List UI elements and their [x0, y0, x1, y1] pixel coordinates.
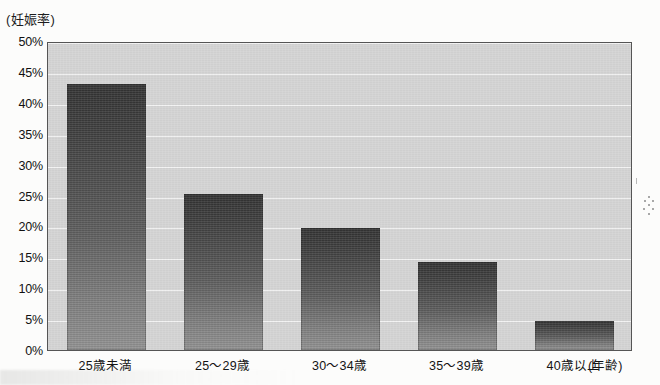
scan-speckle-artifact	[643, 196, 656, 216]
scan-fleck-artifact	[636, 178, 637, 184]
bar	[184, 194, 263, 350]
y-axis-tick-labels: 50%45%40%35%30%25%20%15%10%5%0%	[0, 42, 43, 351]
bar	[418, 262, 497, 350]
y-tick-label: 40%	[2, 97, 43, 111]
y-tick-label: 10%	[2, 282, 43, 296]
bar	[301, 228, 380, 350]
gridline-50	[48, 43, 631, 44]
chart-page: (妊娠率) 50%45%40%35%30%25%20%15%10%5%0% 25…	[0, 0, 660, 385]
y-tick-label: 0%	[2, 344, 43, 358]
y-tick-label: 35%	[2, 128, 43, 142]
y-axis-caption: (妊娠率)	[6, 9, 55, 28]
y-tick-label: 5%	[2, 313, 43, 327]
bar	[535, 321, 614, 350]
y-tick-label: 25%	[2, 190, 43, 204]
y-tick-label: 30%	[2, 159, 43, 173]
x-tick-label: 35～39歳	[398, 355, 515, 374]
scan-edge-smudge-artifact	[0, 370, 300, 385]
gridline-45	[48, 74, 631, 75]
y-tick-label: 50%	[2, 35, 43, 49]
y-tick-label: 20%	[2, 220, 43, 234]
y-tick-label: 15%	[2, 251, 43, 265]
y-tick-label: 45%	[2, 66, 43, 80]
x-axis-caption: (年齢)	[588, 355, 622, 374]
plot-area	[47, 42, 632, 351]
bar	[67, 84, 146, 350]
